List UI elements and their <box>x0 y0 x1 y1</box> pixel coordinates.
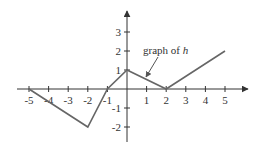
x-tick-label: 2 <box>163 94 169 106</box>
y-tick-label: 3 <box>116 26 122 38</box>
annotation-arrow <box>146 57 158 77</box>
x-tick-label: 5 <box>222 94 228 106</box>
axes <box>17 11 248 142</box>
y-tick-label: 1 <box>116 64 122 76</box>
graph-annotation: graph of h <box>143 44 189 77</box>
ticks: -5-4-3-2-112345-2-1123 <box>24 26 228 133</box>
x-tick-label: 3 <box>183 94 189 106</box>
x-tick-label: -3 <box>64 94 74 106</box>
y-tick-label: 2 <box>116 45 122 57</box>
x-tick-label: 1 <box>144 94 150 106</box>
y-tick-label: -2 <box>112 121 121 133</box>
x-tick-label: 4 <box>203 94 209 106</box>
y-tick-label: -1 <box>112 102 121 114</box>
function-graph: -5-4-3-2-112345-2-1123 graph of h <box>0 0 261 156</box>
annotation-label: graph of h <box>143 44 189 56</box>
x-tick-label: -5 <box>24 94 34 106</box>
x-tick-label: -2 <box>83 94 92 106</box>
